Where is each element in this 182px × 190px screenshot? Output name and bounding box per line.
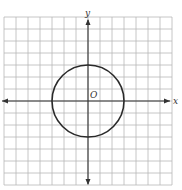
x-axis-label: x: [173, 96, 178, 106]
x-axis-right-arrow-icon: [164, 99, 170, 104]
y-axis-down-arrow-icon: [86, 179, 91, 185]
y-axis-label: y: [84, 8, 91, 18]
y-axis-up-arrow-icon: [86, 19, 91, 25]
origin-label: O: [90, 90, 98, 100]
x-axis-left-arrow-icon: [2, 99, 8, 104]
axes: [2, 19, 170, 185]
coordinate-plane: y x O: [0, 0, 182, 190]
